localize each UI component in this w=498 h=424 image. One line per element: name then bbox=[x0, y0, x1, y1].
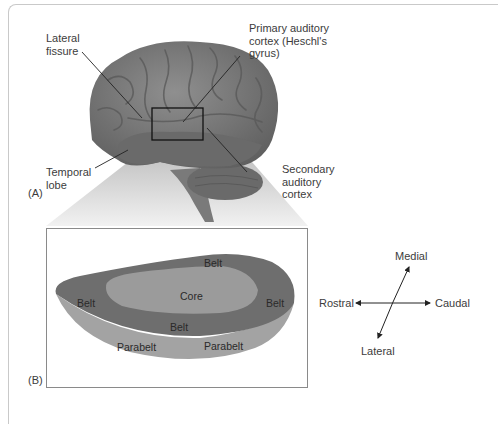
label-caudal: Caudal bbox=[435, 297, 470, 310]
medial-lateral-axis bbox=[393, 267, 409, 302]
label-rostral: Rostral bbox=[319, 297, 354, 310]
label-medial: Medial bbox=[395, 250, 427, 263]
label-lateral: Lateral bbox=[361, 345, 395, 358]
